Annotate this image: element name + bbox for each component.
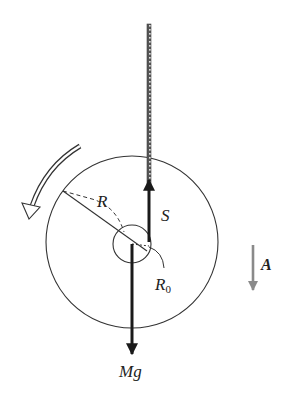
yoyo-diagram: R S R0 A Mg [0,0,293,404]
inner-radius-leader [149,247,164,268]
string-rope [147,24,151,190]
label-R0: R0 [154,275,171,295]
label-A: A [260,256,272,273]
label-Mg: Mg [118,362,142,381]
rotation-arrow [22,146,80,219]
label-R0-sub: 0 [165,283,171,295]
label-R: R [96,192,108,211]
label-S: S [161,206,170,225]
label-R0-main: R [154,275,166,294]
